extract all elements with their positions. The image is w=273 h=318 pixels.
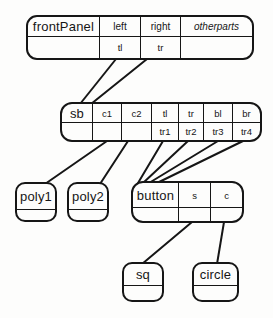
button-value-c — [210, 208, 242, 221]
node-button: button s c — [131, 181, 244, 223]
sb-value-tr3: tr3 — [203, 123, 232, 140]
edge-sb-c2-to-poly2 — [100, 141, 128, 184]
sb-slot-c1: c1 — [92, 104, 121, 122]
sb-value-tr4: tr4 — [232, 123, 260, 140]
poly2-title-row: poly2 — [69, 184, 107, 209]
frontpanel-value-otherparts — [180, 37, 252, 58]
poly1-empty-cell — [17, 210, 55, 220]
sq-title: sq — [124, 264, 162, 285]
node-frontpanel: frontPanel left right otherparts tl tr — [26, 15, 254, 60]
node-poly1: poly1 — [15, 182, 57, 222]
sb-value-row: tr1 tr2 tr3 tr4 — [62, 122, 260, 140]
sb-value-tr2: tr2 — [178, 123, 203, 140]
edge-button-c-to-circle — [217, 222, 224, 264]
sq-title-row: sq — [124, 264, 162, 285]
frontpanel-value-tr: tr — [140, 37, 180, 58]
node-sq: sq — [122, 262, 164, 302]
node-circle: circle — [192, 262, 239, 302]
sb-value-c2 — [121, 123, 151, 140]
circle-empty-row — [194, 285, 237, 300]
frontpanel-slot-row: frontPanel left right otherparts — [28, 17, 252, 36]
edge-sb-tr4-to-button — [155, 141, 243, 184]
button-slot-c: c — [210, 183, 242, 207]
frontpanel-value-tl: tl — [99, 37, 140, 58]
frontpanel-title-empty-cell — [28, 37, 99, 58]
poly1-title: poly1 — [17, 184, 55, 209]
sb-value-tr1: tr1 — [151, 123, 178, 140]
button-title-empty-cell — [133, 208, 178, 221]
sb-slot-row: sb c1 c2 tl tr bl br — [62, 104, 260, 122]
part-hierarchy-diagram: frontPanel left right otherparts tl tr s… — [0, 0, 273, 318]
node-poly2: poly2 — [67, 182, 109, 222]
sb-slot-c2: c2 — [121, 104, 151, 122]
button-value-s — [178, 208, 210, 221]
button-value-row — [133, 207, 242, 221]
sb-slot-tl: tl — [151, 104, 178, 122]
frontpanel-value-row: tl tr — [28, 36, 252, 58]
sq-empty-row — [124, 285, 162, 300]
edge-sb-c1-to-poly1 — [45, 141, 107, 184]
circle-empty-cell — [194, 286, 237, 300]
poly1-title-row: poly1 — [17, 184, 55, 209]
button-slot-s: s — [178, 183, 210, 207]
sb-title: sb — [62, 104, 92, 122]
frontpanel-title: frontPanel — [28, 17, 99, 36]
sb-slot-br: br — [232, 104, 260, 122]
sb-slot-tr: tr — [178, 104, 203, 122]
poly1-empty-row — [17, 209, 55, 220]
sb-value-c1 — [92, 123, 121, 140]
poly2-title: poly2 — [69, 184, 107, 209]
circle-title-row: circle — [194, 264, 237, 285]
edge-frontpanel-tr-to-sb — [91, 59, 147, 104]
sb-slot-bl: bl — [203, 104, 232, 122]
poly2-empty-cell — [69, 210, 107, 220]
sq-empty-cell — [124, 286, 162, 300]
frontpanel-slot-right: right — [140, 17, 180, 36]
edge-button-s-to-sq — [142, 222, 192, 264]
sb-title-empty-cell — [62, 123, 92, 140]
frontpanel-slot-otherparts: otherparts — [180, 17, 252, 36]
button-title: button — [133, 183, 178, 207]
frontpanel-slot-left: left — [99, 17, 140, 36]
node-sb: sb c1 c2 tl tr bl br tr1 tr2 tr3 tr4 — [60, 102, 262, 142]
button-slot-row: button s c — [133, 183, 242, 207]
poly2-empty-row — [69, 209, 107, 220]
circle-title: circle — [194, 264, 237, 285]
